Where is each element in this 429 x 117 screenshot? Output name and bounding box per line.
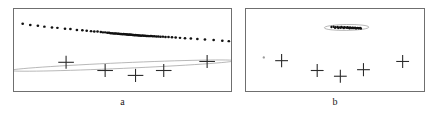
- figure-root: a b: [0, 0, 429, 117]
- panel-b-plot: [246, 9, 424, 91]
- panel-a-label: a: [13, 96, 232, 110]
- panel-a-plot: [14, 9, 231, 91]
- panel-b-label: b: [245, 96, 425, 110]
- panel-a: [13, 8, 232, 92]
- panel-b: [245, 8, 425, 92]
